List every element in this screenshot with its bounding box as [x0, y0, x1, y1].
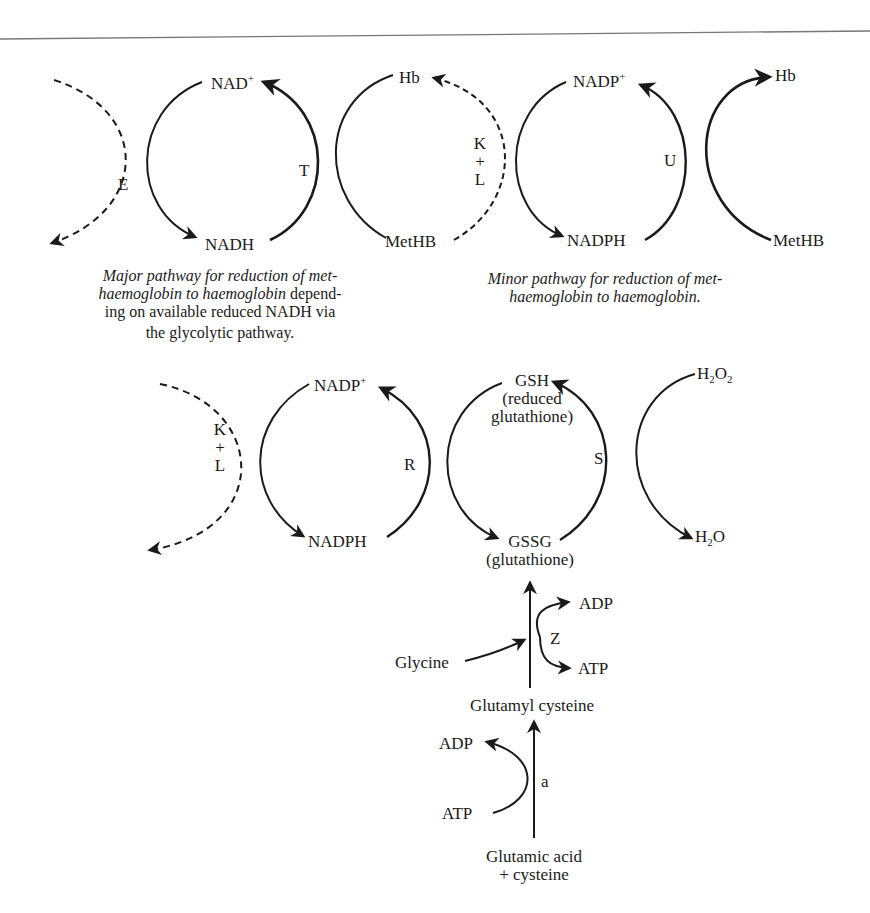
arc-H2O2-to-H2O [636, 374, 695, 538]
enzyme-Z-label: Z [550, 630, 560, 647]
GSH-label-group: GSH (reduced glutathione) [491, 372, 573, 426]
GSH-label: GSH [491, 372, 573, 390]
ATP-label-bottom: ATP [442, 805, 472, 822]
enzyme-E-label: E [118, 176, 128, 193]
H2O-O: O [713, 527, 725, 546]
caption-line-2-plain: depend- [286, 285, 342, 302]
ADP-label-bottom: ADP [439, 735, 473, 752]
arc-a [487, 742, 528, 813]
NADP-plus-label-top: NADP+ [573, 71, 626, 90]
substrate-label-group: Glutamic acid + cysteine [486, 848, 582, 884]
minor-caption-line-1: Minor pathway for reduction of met- [488, 270, 723, 287]
NADPH-label-top: NADPH [567, 232, 626, 249]
Hb-label: Hb [399, 69, 420, 86]
NAD-charge: + [248, 72, 254, 84]
plus-sign-mid: + [210, 439, 230, 457]
Hb-label-right: Hb [775, 67, 796, 84]
ADP-label-top: ADP [579, 595, 613, 612]
NADP-text-mid: NADP [314, 376, 360, 395]
enzyme-L: L [470, 171, 490, 189]
glycine-label: Glycine [395, 654, 449, 671]
plus-sign: + [470, 153, 490, 171]
H2O-label: H2O [695, 528, 725, 548]
H2O2-label: H2O2 [697, 365, 733, 385]
arc-NADH-to-NAD [264, 82, 318, 240]
NADPH-label-mid: NADPH [308, 533, 367, 550]
enzyme-K-plus-L-top: K + L [470, 135, 490, 189]
NADP-text: NADP [573, 72, 619, 91]
glutamic-acid-label: Glutamic acid [486, 848, 582, 866]
GSSG-note: (glutathione) [486, 551, 574, 569]
NADP-charge: + [619, 70, 625, 82]
arc-NADP-to-NADPH-mid [260, 384, 309, 536]
arc-MetHB-to-Hb-right [706, 77, 771, 240]
arc-E-dashed [52, 80, 126, 243]
ATP-label-top: ATP [578, 660, 608, 677]
NADP-plus-label-mid: NADP+ [314, 375, 367, 394]
arc-NAD-to-NADH [147, 82, 202, 237]
minor-caption-line-2: haemoglobin to haemoglobin. [509, 288, 701, 305]
H2O2-H: H [697, 364, 709, 383]
enzyme-K: K [470, 135, 490, 153]
enzyme-K-mid: K [210, 421, 230, 439]
NAD-plus-label: NAD+ [211, 73, 254, 92]
arc-NADP-to-NADPH [516, 82, 566, 236]
arrow-glycine [465, 640, 524, 661]
enzyme-T-label: T [299, 162, 309, 179]
enzyme-L-mid: L [210, 457, 230, 475]
major-pathway-caption: Major pathway for reduction of met- haem… [50, 267, 390, 342]
H2O2-O: O [715, 364, 727, 383]
plus-cysteine-label: + cysteine [486, 866, 582, 884]
NAD-text: NAD [211, 74, 248, 93]
MetHB-label-right: MetHB [773, 232, 824, 249]
H2O2-sub2: 2 [727, 373, 733, 385]
arc-Hb-to-MetHB [336, 75, 393, 238]
GSSG-label-group: GSSG (glutathione) [486, 533, 574, 569]
caption-line-1: Major pathway for reduction of met- [103, 267, 338, 284]
enzyme-S-label: S [594, 450, 603, 467]
enzyme-K-plus-L-middle: K + L [210, 421, 230, 475]
GSH-note-2: glutathione) [491, 408, 573, 426]
caption-line-4: the glycolytic pathway. [50, 324, 390, 342]
caption-line-2-italic: haemoglobin to haemoglobin [98, 285, 286, 302]
GSSG-label: GSSG [486, 533, 574, 551]
MetHB-label: MetHB [385, 233, 436, 250]
GSH-note-1: (reduced [491, 390, 573, 408]
NADH-label: NADH [205, 236, 254, 253]
enzyme-R-label: R [404, 456, 415, 473]
enzyme-a-label: a [541, 773, 549, 790]
caption-line-3: ing on available reduced NADH via [50, 303, 390, 321]
H2O-H: H [695, 527, 707, 546]
NADP-charge-mid: + [360, 374, 366, 386]
top-rule [0, 31, 870, 39]
glutamyl-cysteine-label: Glutamyl cysteine [470, 697, 594, 714]
pathway-diagram [0, 0, 870, 913]
enzyme-U-label: U [664, 152, 676, 169]
minor-pathway-caption: Minor pathway for reduction of met- haem… [445, 270, 765, 306]
